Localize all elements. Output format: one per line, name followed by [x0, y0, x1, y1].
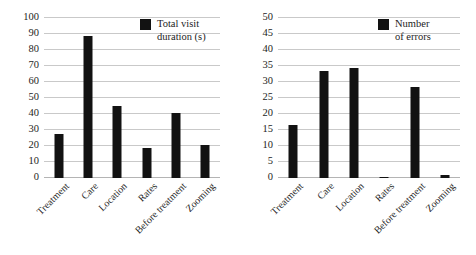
bar — [172, 113, 181, 178]
y-axis-tick-label: 20 — [29, 140, 40, 151]
legend-left: Total visit duration (s) — [140, 17, 206, 43]
y-axis-tick-label: 60 — [29, 76, 40, 87]
chart-panel-number-of-errors: 05101520253035404550 TreatmentCareLocati… — [238, 0, 476, 255]
y-axis-tick-label: 45 — [263, 28, 274, 39]
legend-label-line-1: Number — [395, 17, 431, 30]
bar — [113, 106, 122, 178]
bars-right — [278, 18, 460, 178]
y-axis-tick-label: 50 — [29, 92, 40, 103]
chart-panel-total-visit-duration: 0102030405060708090100 TreatmentCareLoca… — [0, 0, 238, 255]
y-axis-tick-label: 0 — [268, 172, 273, 183]
bar — [201, 145, 210, 178]
bar — [54, 134, 63, 178]
x-axis-tick-label: Treatment — [35, 181, 71, 217]
legend-label-line-1: Total visit — [157, 17, 206, 30]
x-axis-tick-label: Zooming — [184, 181, 217, 214]
bar — [289, 125, 298, 178]
x-axis-tick-label: Treatment — [269, 181, 305, 217]
y-axis-tick-label: 30 — [263, 76, 274, 87]
y-axis-tick-label: 5 — [268, 156, 273, 167]
y-axis-tick-label: 25 — [263, 92, 274, 103]
two-panel-bar-chart-figure: 0102030405060708090100 TreatmentCareLoca… — [0, 0, 476, 255]
y-axis-tick-label: 15 — [263, 124, 274, 134]
y-axis-tick-label: 10 — [29, 156, 40, 167]
bar — [319, 71, 328, 178]
y-axis-tick-label: 40 — [263, 44, 274, 55]
y-axis-tick-label: 70 — [29, 60, 40, 71]
bar — [349, 68, 358, 178]
legend-label-line-2: of errors — [395, 30, 431, 43]
x-axis-tick-label: Rates — [373, 181, 396, 204]
y-axis-tick-label: 40 — [29, 108, 40, 119]
legend-label-total-visit-duration: Total visit duration (s) — [157, 17, 206, 43]
y-axis-tick-label: 50 — [263, 12, 274, 23]
plot-area-right: 05101520253035404550 TreatmentCareLocati… — [278, 18, 460, 178]
legend-label-line-2: duration (s) — [157, 30, 206, 43]
y-axis-tick-label: 20 — [263, 108, 274, 119]
legend-right: Number of errors — [378, 17, 431, 43]
x-axis-tick-label: Zooming — [424, 181, 457, 214]
x-axis-tick-label: Rates — [136, 181, 159, 204]
bar — [84, 36, 93, 178]
x-axis-tick-label: Location — [334, 181, 366, 213]
legend-swatch-icon — [140, 19, 151, 30]
legend-swatch-icon — [378, 19, 389, 30]
y-axis-tick-label: 10 — [263, 140, 274, 151]
x-axis-tick-label: Care — [80, 181, 100, 201]
x-axis-tick-label: Location — [97, 181, 129, 213]
legend-label-number-of-errors: Number of errors — [395, 17, 431, 43]
y-axis-tick-label: 30 — [29, 124, 40, 134]
x-axis-labels-left: TreatmentCareLocationRatesBefore treatme… — [44, 178, 220, 252]
x-axis-tick-label: Care — [315, 181, 335, 201]
y-axis-tick-label: 90 — [29, 28, 40, 39]
y-axis-tick-label: 0 — [34, 172, 39, 183]
y-axis-tick-label: 100 — [23, 12, 39, 23]
y-axis-tick-label: 80 — [29, 44, 40, 55]
bar — [410, 87, 419, 178]
bar — [142, 148, 151, 178]
x-axis-labels-right: TreatmentCareLocationRatesBefore treatme… — [278, 178, 460, 252]
y-axis-tick-label: 35 — [263, 60, 274, 71]
